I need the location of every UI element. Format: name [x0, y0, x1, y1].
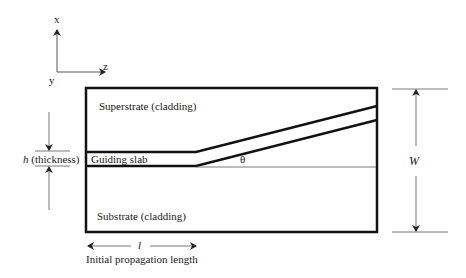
length-caption: Initial propagation length [86, 254, 198, 265]
waveguide-diagram: x z y Superstrate (cladding) Guiding sla… [0, 0, 466, 278]
y-axis-label: y [49, 75, 55, 86]
z-axis-label: z [103, 61, 108, 72]
guiding-slab-label: Guiding slab [91, 154, 148, 165]
superstrate-label: Superstrate (cladding) [99, 101, 196, 112]
length-symbol: l [138, 240, 141, 251]
thickness-text: (thickness) [29, 153, 80, 165]
width-label: W [409, 155, 419, 167]
thickness-label: h (thickness) [23, 154, 80, 165]
x-axis-label: x [54, 14, 60, 25]
angle-label: θ [240, 154, 245, 165]
substrate-label: Substrate (cladding) [97, 211, 186, 222]
width-dimension [392, 89, 448, 232]
coordinate-axes [57, 30, 105, 72]
